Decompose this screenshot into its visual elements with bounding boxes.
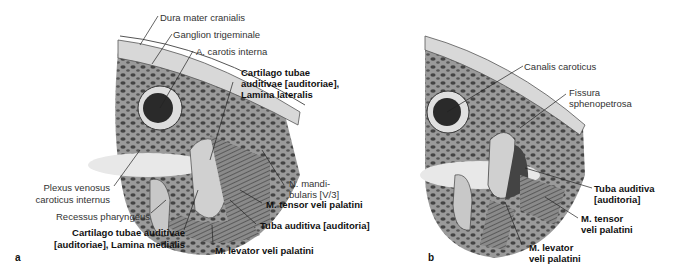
label-fissura-1: Fissura — [569, 87, 600, 98]
panel-letter-b: b — [428, 252, 434, 263]
label-plexus-venosus-2: caroticus internus — [36, 194, 110, 205]
label-cartilago-medialis-1: Cartilago tubae auditivae — [72, 227, 185, 238]
panel-letter-a: a — [15, 252, 21, 263]
label-canalis-caroticus: Canalis caroticus — [524, 61, 596, 72]
label-m-levator-b-2: veli palatini — [529, 253, 581, 264]
label-cartilago-lateralis-3: Lamina lateralis — [241, 89, 313, 100]
label-cartilago-lateralis-2: auditivae [auditoriae], — [241, 78, 339, 89]
label-m-tensor-b-1: M. tensor — [581, 213, 623, 224]
label-m-tensor: M. tensor veli palatini — [266, 199, 363, 210]
label-plexus-venosus-1: Plexus venosus — [43, 182, 110, 193]
label-m-tensor-b-2: veli palatini — [581, 224, 633, 235]
label-tuba-auditiva-b-1: Tuba auditiva — [594, 183, 655, 194]
label-cartilago-medialis-2: [auditoriae], Lamina medialis — [54, 239, 185, 250]
label-m-levator-b-1: M. levator — [529, 242, 573, 253]
label-m-levator: M. levator veli palatini — [215, 245, 314, 256]
label-dura-mater: Dura mater cranialis — [160, 12, 245, 23]
label-fissura-2: sphenopetrosa — [569, 98, 632, 109]
label-tuba-auditiva: Tuba auditiva [auditoria] — [260, 220, 370, 231]
label-recessus-pharyngeus: Recessus pharyngeus — [56, 211, 150, 222]
label-cartilago-lateralis-1: Cartilago tubae — [241, 67, 310, 78]
label-ganglion-trigeminale: Ganglion trigeminale — [173, 29, 260, 40]
label-tuba-auditiva-b-2: [auditoria] — [594, 194, 640, 205]
label-n-mandibularis-1: N. mandi- — [289, 178, 330, 189]
label-carotis-interna: A. carotis interna — [196, 46, 267, 57]
